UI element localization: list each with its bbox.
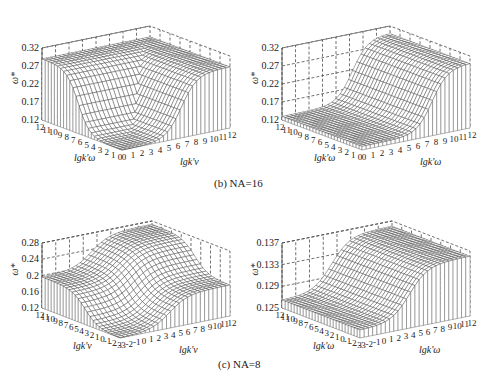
y-axis-label: lgk'ω xyxy=(419,344,440,355)
x-tick-label: 3 xyxy=(98,145,103,155)
y-tick-label: 9 xyxy=(443,136,448,146)
y-tick-label: 6 xyxy=(416,141,421,151)
z-axis-label: ω* xyxy=(249,72,260,84)
y-tick-label: 6 xyxy=(186,327,191,337)
y-tick-label: 3 xyxy=(164,331,169,341)
y-tick-label: 0 xyxy=(122,152,127,162)
x-tick-label: 9 xyxy=(298,130,303,140)
z-tick-label: 0.17 xyxy=(22,96,40,107)
x-tick-label: 5 xyxy=(84,140,89,150)
x-tick-label: 6 xyxy=(318,137,323,147)
y-tick-label: 1 xyxy=(389,334,394,344)
y-tick-label: 10 xyxy=(210,134,220,144)
y-tick-label: 0 xyxy=(382,336,387,346)
x-tick-label: 7 xyxy=(71,135,76,145)
z-tick-label: 0.28 xyxy=(22,237,40,248)
y-tick-label: 7 xyxy=(433,325,438,335)
x-tick-label: 2 xyxy=(104,147,109,157)
x-tick-label: 5 xyxy=(324,140,329,150)
y-tick-label: 5 xyxy=(418,328,423,338)
y-tick-label: 8 xyxy=(200,324,205,334)
y-tick-label: 1 xyxy=(371,150,376,160)
y-tick-label: 5 xyxy=(407,143,412,153)
surface-plot-c-right: 0.1250.1290.1330.137ω*1211109876543210-1… xyxy=(240,190,485,355)
y-tick-label: 10 xyxy=(450,134,460,144)
x-tick-label: 2 xyxy=(90,330,95,340)
z-tick-label: 0.32 xyxy=(262,42,280,53)
y-tick-label: 6 xyxy=(176,141,181,151)
plot-b-left: 0.120.170.220.270.32ω*121110987654321001… xyxy=(0,0,240,175)
x-tick-label: 4 xyxy=(331,142,336,152)
x-tick-label: 6 xyxy=(78,137,83,147)
y-tick-label: 2 xyxy=(140,148,145,158)
y-tick-label: 0 xyxy=(362,152,367,162)
z-tick-label: 0.22 xyxy=(22,78,40,89)
y-tick-label: 9 xyxy=(203,136,208,146)
y-tick-label: 4 xyxy=(411,330,416,340)
y-axis-label: lgk'v xyxy=(179,344,198,355)
y-tick-label: 7 xyxy=(193,325,198,335)
z-axis-label: ω* xyxy=(9,72,20,84)
y-tick-label: 12 xyxy=(228,318,237,328)
y-tick-label: 12 xyxy=(468,130,477,140)
y-tick-label: 12 xyxy=(228,130,237,140)
y-tick-label: 7 xyxy=(425,139,430,149)
y-tick-label: 12 xyxy=(468,318,477,328)
x-tick-label: 1 xyxy=(351,150,356,160)
caption-b: (b) NA=16 xyxy=(214,177,263,189)
y-tick-label: 2 xyxy=(156,333,161,343)
surface-plot-c-left: 0.120.160.20.240.28ω*1211109876543210-1-… xyxy=(0,190,245,355)
y-tick-label: 1 xyxy=(149,334,154,344)
z-tick-label: 0.32 xyxy=(22,42,40,53)
y-tick-label: 4 xyxy=(171,330,176,340)
x-tick-label: 7 xyxy=(311,135,316,145)
z-axis-label: ω* xyxy=(9,263,20,275)
caption-c: (c) NA=8 xyxy=(218,358,261,370)
y-tick-label: 3 xyxy=(389,147,394,157)
y-tick-label: 1 xyxy=(131,150,136,160)
surface-plot-b-right: 0.120.170.220.270.32ω*121110987654321001… xyxy=(240,0,485,175)
plot-c-left: 0.120.160.20.240.28ω*1211109876543210-1-… xyxy=(0,190,245,355)
y-tick-label: 8 xyxy=(434,137,439,147)
z-tick-label: 0.24 xyxy=(22,253,40,264)
y-tick-label: -1 xyxy=(373,337,381,347)
y-axis-label: lgk'ω xyxy=(420,156,441,167)
z-axis-label: ω* xyxy=(249,263,260,275)
y-tick-label: 5 xyxy=(167,143,172,153)
x-tick-label: 3 xyxy=(338,145,343,155)
z-tick-label: 0.137 xyxy=(257,237,280,248)
y-tick-label: 3 xyxy=(149,147,154,157)
y-tick-label: 0 xyxy=(142,336,147,346)
y-tick-label: 7 xyxy=(185,139,190,149)
x-tick-label: 2 xyxy=(344,147,349,157)
x-tick-label: 9 xyxy=(58,130,63,140)
x-tick-label: 4 xyxy=(91,142,96,152)
y-tick-label: -1 xyxy=(133,337,141,347)
y-tick-label: 8 xyxy=(194,137,199,147)
plot-c-right: 0.1250.1290.1330.137ω*1211109876543210-1… xyxy=(240,190,485,355)
y-tick-label: 11 xyxy=(219,132,228,142)
y-axis-label: lgk'v xyxy=(180,156,199,167)
y-tick-label: 4 xyxy=(158,145,163,155)
y-tick-label: 2 xyxy=(380,148,385,158)
z-tick-label: 0.27 xyxy=(262,60,280,71)
x-tick-label: 2 xyxy=(330,330,335,340)
z-tick-label: 0.2 xyxy=(27,270,40,281)
x-tick-label: 1 xyxy=(335,332,340,342)
surface-plot-b-left: 0.120.170.220.270.32ω*121110987654321001… xyxy=(0,0,240,175)
x-tick-label: 8 xyxy=(304,132,309,142)
y-tick-label: 2 xyxy=(396,333,401,343)
x-tick-label: 1 xyxy=(95,332,100,342)
plot-b-right: 0.120.170.220.270.32ω*121110987654321001… xyxy=(240,0,485,175)
z-tick-label: 0.129 xyxy=(257,280,280,291)
y-tick-label: 11 xyxy=(459,132,468,142)
x-axis-label: lgk'ω xyxy=(74,152,95,163)
z-tick-label: 0.16 xyxy=(22,286,40,297)
z-tick-label: 0.17 xyxy=(262,96,280,107)
z-tick-label: 0.22 xyxy=(262,78,280,89)
z-tick-label: 0.27 xyxy=(22,60,40,71)
y-tick-label: 6 xyxy=(426,327,431,337)
y-tick-label: 4 xyxy=(398,145,403,155)
y-tick-label: 8 xyxy=(440,324,445,334)
x-axis-label: lgk'v xyxy=(73,340,92,351)
